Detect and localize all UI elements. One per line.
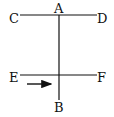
diagram-canvas: A C D E F B — [0, 0, 114, 117]
label-f: F — [97, 70, 106, 85]
label-e: E — [9, 70, 19, 85]
label-c: C — [9, 11, 19, 26]
label-b: B — [54, 100, 64, 115]
label-a: A — [53, 1, 64, 16]
label-d: D — [97, 11, 107, 26]
